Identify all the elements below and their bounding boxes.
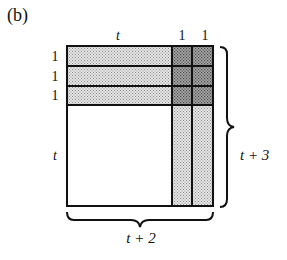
left-label-1b: 1 [52, 69, 59, 84]
right-brace-icon [220, 47, 234, 207]
top-label-t: t [116, 28, 121, 43]
bottom-brace-icon [67, 212, 213, 227]
top-label-1b: 1 [202, 28, 209, 43]
left-label-1a: 1 [52, 49, 59, 64]
panel-label: (b) [7, 5, 28, 26]
left-label-1c: 1 [52, 88, 59, 103]
top-label-1a: 1 [179, 28, 186, 43]
main-square [67, 105, 172, 206]
area-model-diagram: (b) t 1 1 1 1 1 t t + 3 t + 2 [0, 0, 287, 260]
right-brace-label: t + 3 [240, 147, 269, 163]
bottom-brace-label: t + 2 [126, 230, 156, 246]
left-label-t: t [53, 148, 58, 163]
top-rows-strip [67, 46, 172, 105]
